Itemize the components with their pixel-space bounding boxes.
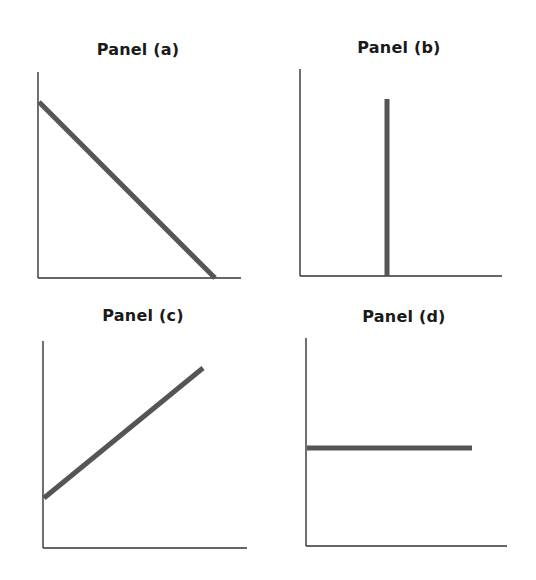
panel-c-plot: [43, 341, 247, 548]
panel-d-plot: [306, 338, 507, 546]
plot-canvas: [0, 0, 536, 580]
panel-a-plot: [38, 72, 241, 278]
panel-b-plot: [300, 69, 502, 276]
figure-four-panels: Panel (a) Panel (b) Panel (c) Panel (d): [0, 0, 536, 580]
panel-a-downward-line: [39, 102, 215, 278]
panel-c-upward-line: [44, 368, 203, 498]
